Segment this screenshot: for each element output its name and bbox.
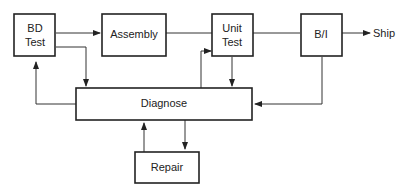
edge-diagnose-unittest	[201, 51, 211, 89]
edge-bdtest-diagnose	[56, 47, 86, 86]
node-repair-label: Repair	[151, 161, 184, 173]
node-repair: Repair	[135, 152, 199, 183]
process-flow-diagram: BD Test Assembly Unit Test B/I Ship Diag…	[0, 0, 404, 195]
node-bi: B/I	[301, 14, 342, 56]
node-unit-test-label-2: Test	[222, 36, 242, 48]
edge-bi-diagnose	[255, 57, 322, 104]
node-bi-label: B/I	[314, 28, 327, 40]
node-unit-test-label-1: Unit	[222, 22, 242, 34]
node-assembly: Assembly	[102, 14, 166, 56]
node-unit-test: Unit Test	[212, 14, 253, 56]
node-assembly-label: Assembly	[110, 28, 158, 40]
edge-diagnose-bdtest	[36, 62, 76, 104]
node-ship-label: Ship	[373, 27, 395, 39]
node-diagnose-label: Diagnose	[141, 97, 187, 109]
node-diagnose: Diagnose	[76, 88, 252, 120]
node-bd-test: BD Test	[14, 14, 55, 56]
node-bd-test-label-1: BD	[27, 22, 42, 34]
node-bd-test-label-2: Test	[25, 36, 45, 48]
